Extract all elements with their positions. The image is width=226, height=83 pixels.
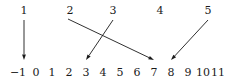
- arrow-shaft: [175, 20, 208, 56]
- arrowhead-icon: [86, 54, 91, 60]
- arrow-shaft: [89, 20, 113, 55]
- axis-tick-label: −1: [8, 66, 28, 80]
- arrowhead-icon: [148, 56, 154, 60]
- number-line-mapping-figure: 12345 −101234567891011: [0, 0, 226, 83]
- arrow-1-to-neg1: [22, 20, 26, 60]
- arrow-5-to-8: [171, 20, 208, 60]
- arrow-2-to-7: [68, 19, 154, 60]
- arrowhead-icon: [22, 55, 26, 61]
- axis-tick-label: 11: [208, 66, 226, 80]
- arrow-shaft: [68, 19, 149, 58]
- arrow-3-to-3: [86, 20, 113, 60]
